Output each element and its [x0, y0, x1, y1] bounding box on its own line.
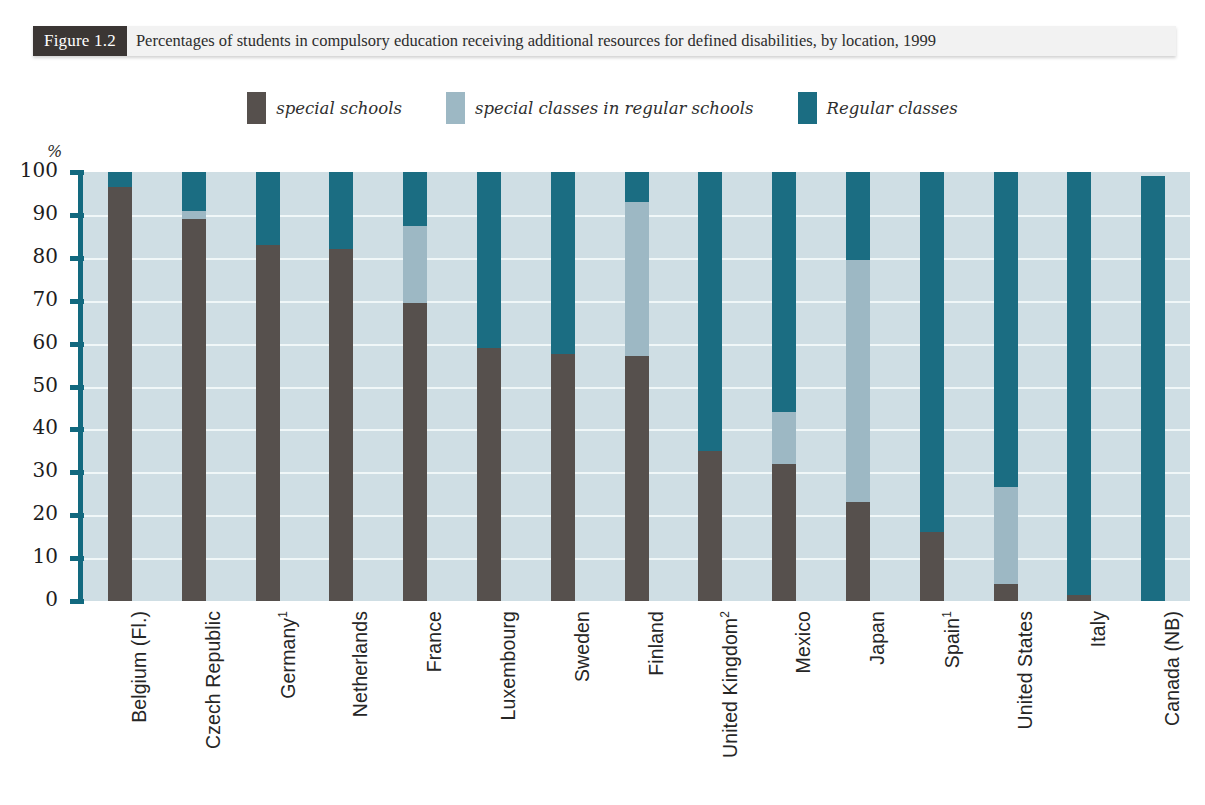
y-tick-20 [70, 513, 84, 518]
bar-segment [698, 172, 722, 451]
category-label: Finland [645, 611, 668, 676]
category-label: Czech Republic [202, 611, 225, 749]
y-tick-label-0: 0 [12, 587, 58, 611]
bar-column [551, 172, 575, 601]
footnote-marker: 1 [940, 611, 954, 618]
bar-column [182, 172, 206, 601]
bar-segment [920, 532, 944, 601]
bar-column [920, 172, 944, 601]
y-tick-70 [70, 299, 84, 304]
y-tick-10 [70, 556, 84, 561]
bar-segment [329, 172, 353, 249]
y-tick-label-10: 10 [12, 544, 58, 568]
y-tick-50 [70, 385, 84, 390]
category-label: Canada (NB) [1161, 611, 1184, 726]
bar-segment [329, 249, 353, 601]
bar-segment [920, 172, 944, 532]
bar-segment [772, 464, 796, 601]
y-tick-label-20: 20 [12, 501, 58, 525]
category-label: United States [1014, 611, 1037, 729]
bar-segment [551, 354, 575, 601]
y-tick-label-50: 50 [12, 373, 58, 397]
bar-segment [182, 211, 206, 220]
bar-segment [698, 451, 722, 601]
bar-segment [994, 172, 1018, 487]
category-label: Belgium (Fl.) [128, 611, 151, 723]
y-tick-label-60: 60 [12, 330, 58, 354]
y-tick-label-90: 90 [12, 201, 58, 225]
bar-column [772, 172, 796, 601]
bar-segment [403, 172, 427, 226]
y-tick-80 [70, 256, 84, 261]
bar-segment [625, 356, 649, 601]
category-label: Germany1 [276, 611, 300, 699]
bar-segment [1067, 595, 1091, 601]
bar-segment [256, 172, 280, 245]
bar-column [846, 172, 870, 601]
y-tick-label-30: 30 [12, 458, 58, 482]
bar-column [1141, 172, 1165, 601]
bar-segment [108, 172, 132, 187]
bar-segment [182, 172, 206, 211]
bar-segment [108, 187, 132, 601]
y-tick-40 [70, 427, 84, 432]
bar-segment [625, 202, 649, 356]
bar-segment [846, 260, 870, 502]
bar-segment [403, 226, 427, 303]
y-tick-0 [70, 599, 84, 604]
category-label: Sweden [571, 611, 594, 682]
category-label: United Kingdom2 [718, 611, 742, 758]
bar-column [1067, 172, 1091, 601]
category-label: Netherlands [349, 611, 372, 717]
bar-column [625, 172, 649, 601]
chart-container: % 1009080706050403020100 Belgium (Fl.)Cz… [0, 0, 1205, 805]
category-label: Spain1 [940, 611, 964, 668]
bar-segment [994, 584, 1018, 601]
y-tick-label-70: 70 [12, 287, 58, 311]
bar-segment [625, 172, 649, 202]
y-tick-90 [70, 213, 84, 218]
y-tick-label-80: 80 [12, 244, 58, 268]
bar-segment [772, 412, 796, 463]
bar-segment [846, 172, 870, 260]
footnote-marker: 1 [276, 611, 290, 618]
bar-segment [403, 303, 427, 601]
bar-column [403, 172, 427, 601]
bar-segment [1067, 172, 1091, 595]
bar-column [256, 172, 280, 601]
bar-column [477, 172, 501, 601]
category-label: Luxembourg [497, 611, 520, 720]
footnote-marker: 2 [718, 611, 732, 618]
bar-segment [477, 172, 501, 348]
category-label: Japan [866, 611, 889, 665]
y-tick-60 [70, 342, 84, 347]
bar-segment [182, 219, 206, 601]
bar-column [108, 172, 132, 601]
bar-segment [772, 172, 796, 412]
y-tick-label-100: 100 [12, 158, 58, 182]
bar-column [994, 172, 1018, 601]
bar-segment [1141, 176, 1165, 601]
bar-segment [846, 502, 870, 601]
category-label: Italy [1087, 611, 1110, 647]
bar-segment [994, 487, 1018, 584]
bar-column [698, 172, 722, 601]
bar-segment [256, 245, 280, 601]
category-label: France [423, 611, 446, 672]
bar-segment [477, 348, 501, 601]
bar-segment [551, 172, 575, 354]
y-tick-label-40: 40 [12, 415, 58, 439]
category-label: Mexico [792, 611, 815, 673]
y-tick-30 [70, 470, 84, 475]
bar-column [329, 172, 353, 601]
y-tick-100 [70, 170, 84, 175]
